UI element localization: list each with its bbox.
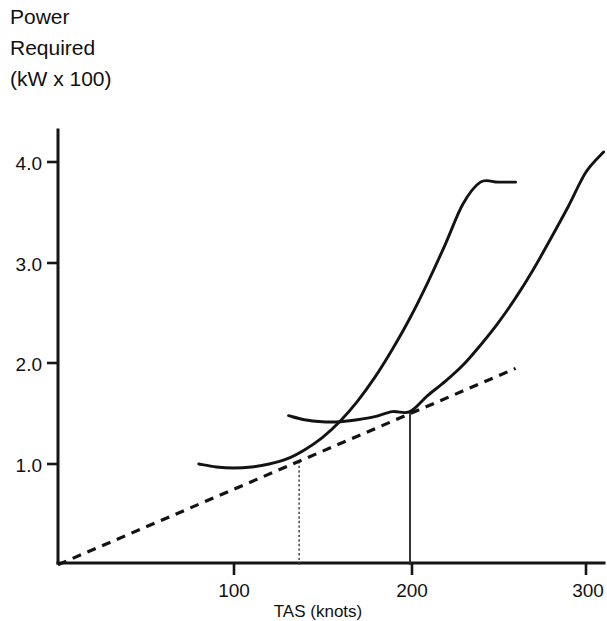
y-tick-label-1: 1.0	[16, 455, 42, 476]
chart-canvas: Power Required (kW x 100) 4.0 3.0 2.0 1.…	[0, 0, 607, 621]
y-axis-ticks	[47, 162, 58, 464]
x-axis-tick-labels: 100 200 300	[218, 580, 604, 601]
x-tick-label-100: 100	[218, 580, 250, 601]
y-tick-label-2: 2.0	[16, 354, 42, 375]
x-axis-ticks	[234, 563, 586, 575]
plot-area	[58, 152, 604, 565]
power-required-chart: Power Required (kW x 100) 4.0 3.0 2.0 1.…	[0, 0, 607, 621]
y-tick-label-3: 3.0	[16, 254, 42, 275]
y-axis-tick-labels: 4.0 3.0 2.0 1.0	[16, 153, 42, 476]
y-axis-title-line-2: Required	[10, 36, 95, 59]
x-tick-label-200: 200	[396, 580, 428, 601]
y-axis-title-line-1: Power	[10, 5, 70, 28]
x-axis-title: TAS (knots)	[274, 602, 362, 621]
x-tick-label-300: 300	[572, 580, 604, 601]
axes	[58, 130, 604, 563]
y-axis-title-line-3: (kW x 100)	[10, 67, 112, 90]
power-required-curve-high-altitude	[289, 152, 604, 422]
y-axis-title: Power Required (kW x 100)	[10, 5, 112, 90]
power-required-curve-low-altitude	[199, 180, 516, 468]
y-tick-label-4: 4.0	[16, 153, 42, 174]
tangent-line-from-origin	[58, 368, 516, 564]
